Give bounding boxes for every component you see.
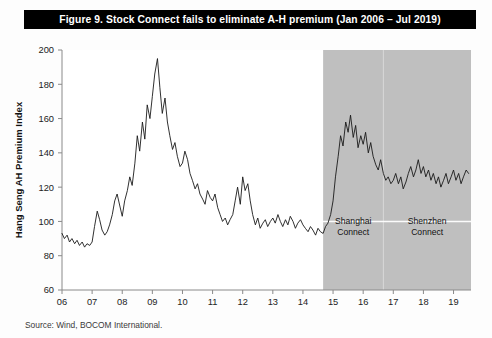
chart-plot-area: 6080100120140160180200060708091011121314… [0, 33, 492, 305]
x-axis-tick-label: 07 [87, 297, 97, 305]
x-axis-tick-label: 11 [208, 297, 218, 305]
y-axis-tick-label: 120 [38, 183, 54, 193]
x-axis-tick-label: 06 [57, 297, 67, 305]
y-axis-tick-label: 140 [38, 148, 54, 158]
y-axis-tick-label: 100 [38, 217, 54, 227]
ah-premium-line-chart: 6080100120140160180200060708091011121314… [0, 33, 492, 305]
x-axis-tick-label: 16 [358, 297, 368, 305]
y-axis-tick-label: 180 [38, 80, 54, 90]
x-axis-tick-label: 12 [238, 297, 248, 305]
y-axis-tick-label: 60 [44, 285, 54, 295]
figure-container: Figure 9. Stock Connect fails to elimina… [0, 0, 492, 338]
annotation-shenzhen-connect-line2: Connect [411, 227, 444, 237]
x-axis-tick-label: 18 [418, 297, 428, 305]
x-axis-tick-label: 19 [448, 297, 458, 305]
y-axis-tick-label: 160 [38, 114, 54, 124]
shaded-region-shenzhen-connect [383, 50, 471, 290]
x-axis-tick-label: 13 [268, 297, 278, 305]
annotation-shanghai-connect-line2: Connect [337, 227, 370, 237]
x-axis-tick-label: 15 [328, 297, 338, 305]
shaded-region-shanghai-connect [323, 50, 383, 290]
figure-title-bar: Figure 9. Stock Connect fails to elimina… [24, 10, 476, 29]
annotation-shanghai-connect: Shanghai [335, 216, 371, 226]
y-axis-title: Hang Seng AH Premium Index [13, 101, 24, 238]
page-title: Figure 9. Stock Connect fails to elimina… [59, 14, 440, 25]
source-note: Source: Wind, BOCOM International. [25, 320, 162, 330]
y-axis-tick-label: 200 [38, 45, 54, 55]
y-axis-tick-label: 80 [44, 251, 54, 261]
x-axis-tick-label: 10 [177, 297, 187, 305]
x-axis-tick-label: 17 [388, 297, 398, 305]
x-axis-tick-label: 09 [147, 297, 157, 305]
x-axis-tick-label: 08 [117, 297, 127, 305]
x-axis-tick-label: 14 [298, 297, 308, 305]
annotation-shenzhen-connect: Shenzhen [408, 216, 447, 226]
